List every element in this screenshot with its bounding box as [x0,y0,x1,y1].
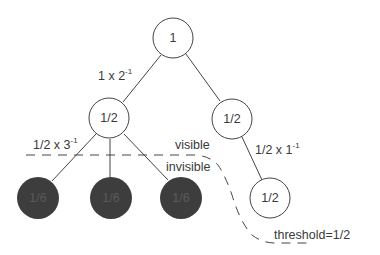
node-left-child-1-label: 1/6 [18,192,58,205]
edge-label-right-child: 1/2 x 1-1 [255,142,300,157]
invisible-label: invisible [166,161,210,174]
edge-label-left-children: 1/2 x 3-1 [33,137,78,152]
node-left-child-2-label: 1/6 [91,192,131,205]
visible-label: visible [175,139,210,152]
node-right-label: 1/2 [212,113,252,126]
node-right-child-label: 1/2 [250,192,290,205]
edge-left-child3 [124,134,168,180]
edge-label-root-left: 1 x 2-1 [98,68,132,83]
node-left-label: 1/2 [89,112,129,125]
node-root-label: 1 [153,32,193,45]
node-left-child-3-label: 1/6 [161,192,201,205]
edge-root-right [186,54,220,101]
threshold-label: threshold=1/2 [274,229,350,242]
